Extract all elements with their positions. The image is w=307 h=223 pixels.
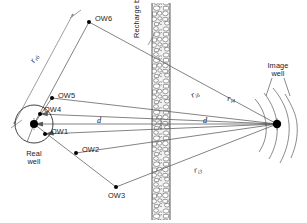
image-well-label: Image well [253,62,303,79]
image-well-leader-lines [266,78,290,96]
ow3-label: OW3 [108,192,125,200]
ow6-label: OW6 [95,15,112,23]
ow5-dot [50,96,54,100]
r-i3-subscript: i3 [197,168,203,175]
ow6-dot [87,20,91,24]
ow1-label: OW1 [51,128,68,136]
ow4-dot [38,112,42,116]
image-well-label-line2: well [271,69,284,78]
d-right-label: d [203,116,207,125]
ow3-dot [114,185,118,189]
ow5-label: OW5 [58,92,75,100]
image-well-theory-diagram: OW6 OW5 OW4 OW1 OW2 OW3 Real well Image … [0,0,307,223]
recharge-boundary-label: Recharge boundary [133,0,141,38]
r-i4-subscript: i4 [231,97,236,103]
image-well-dot [273,120,281,128]
ow2-dot [74,151,78,155]
ow2-label: OW2 [82,146,99,154]
real-well-label-line2: well [27,157,40,166]
r-i4-label: ri4 [227,94,235,104]
ow4-label: OW4 [44,106,61,114]
real-well-dot [30,120,38,128]
real-well-label: Real well [14,150,54,167]
d-left-label: d [97,116,101,125]
ow1-dot [43,132,47,136]
